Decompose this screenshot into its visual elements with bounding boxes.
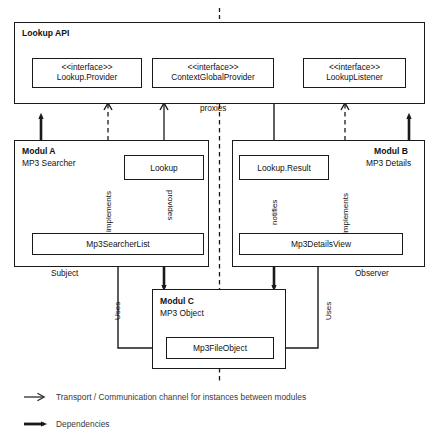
modul-c-subtitle: MP3 Object	[160, 308, 204, 318]
uses-label-left: Uses	[113, 302, 122, 320]
modul-a-subtitle: MP3 Searcher	[22, 158, 76, 168]
modul-b-title: Modul B	[374, 146, 408, 156]
implements-label-right: implements	[341, 193, 350, 234]
modul-b-subtitle: MP3 Details	[366, 158, 411, 168]
legend-item-dependencies-label: Dependencies	[56, 419, 110, 429]
implements-arrowhead-right	[341, 103, 349, 110]
interface-lookup-listener[interactable]: <<interface>> LookupListener	[303, 58, 406, 88]
lookup-api-title: Lookup API	[22, 28, 69, 38]
interface-name: Lookup.Provider	[57, 73, 117, 83]
diagram-canvas: Lookup API <<interface>> Lookup.Provider…	[0, 0, 439, 447]
uses-label-right: Uses	[324, 302, 333, 320]
class-mp3-details-view[interactable]: Mp3DetailsView	[239, 233, 403, 255]
implements-arrowhead-left	[104, 103, 112, 110]
class-lookup[interactable]: Lookup	[124, 155, 204, 180]
modul-c-title: Modul C	[160, 296, 194, 306]
interface-lookup-provider[interactable]: <<interface>> Lookup.Provider	[32, 58, 142, 88]
class-mp3-file-object[interactable]: Mp3FileObject	[166, 337, 274, 359]
legend-item-transport-label: Transport / Communication channel for in…	[56, 392, 306, 402]
class-mp3-searcher-list[interactable]: Mp3SearcherList	[32, 233, 204, 255]
subject-role-label: Subject	[51, 269, 78, 278]
interface-name: LookupListener	[326, 73, 383, 83]
notifies-label: notifies	[270, 200, 279, 225]
implements-label-left: implements	[104, 191, 113, 232]
interface-name: ContextGlobalProvider	[171, 73, 254, 83]
provides-label: provides	[166, 190, 175, 220]
observer-role-label: Observer	[355, 269, 389, 278]
uses-right-connector	[285, 255, 318, 348]
class-lookup-result[interactable]: Lookup.Result	[239, 155, 329, 180]
proxies-label: proxies	[200, 104, 226, 113]
context-arrowhead-center	[160, 103, 168, 140]
modul-a-title: Modul A	[22, 146, 56, 156]
interface-context-global-provider[interactable]: <<interface>> ContextGlobalProvider	[152, 58, 274, 88]
